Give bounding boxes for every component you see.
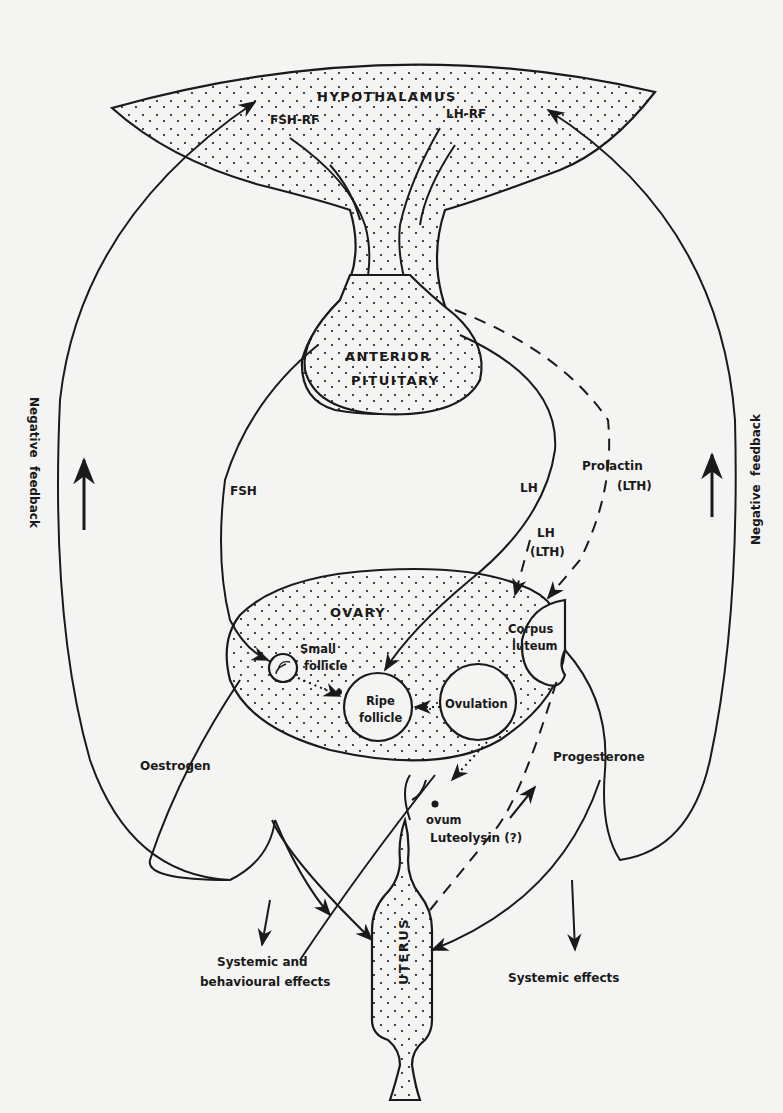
ovum-dot <box>432 801 439 808</box>
endocrine-cycle-diagram: HYPOTHALAMUS FSH-RF LH-RF ANTERIOR PITUI… <box>0 0 783 1113</box>
systemic-behavioural-label-1: Systemic and <box>217 955 308 969</box>
corpus-luteum-label-1: Corpus <box>508 622 553 636</box>
prolactin-label-2: (LTH) <box>617 479 652 493</box>
ovulation-label: Ovulation <box>445 697 508 711</box>
lh-label: LH <box>520 481 538 495</box>
systemic-behavioural-label-2: behavioural effects <box>200 975 330 989</box>
small-follicle-label-2: follicle <box>304 659 347 673</box>
fsh-label: FSH <box>230 484 257 498</box>
anterior-pituitary-label-2: PITUITARY <box>351 373 440 388</box>
lh-lth-label-2: (LTH) <box>530 545 565 559</box>
hypothalamus-label: HYPOTHALAMUS <box>317 89 457 104</box>
fsh-rf-label: FSH-RF <box>270 113 319 127</box>
anterior-pituitary-label-1: ANTERIOR <box>345 349 432 364</box>
ovum-label: ovum <box>426 813 462 827</box>
lh-rf-label: LH-RF <box>446 107 486 121</box>
corpus-luteum-label-2: luteum <box>512 639 558 653</box>
oviduct <box>405 775 426 820</box>
ripe-follicle-label-1: Ripe <box>366 694 395 708</box>
small-follicle-label-1: Small <box>300 642 336 656</box>
prolactin-label-1: Prolactin <box>582 459 643 473</box>
lh-lth-label-1: LH <box>537 526 555 540</box>
ripe-follicle-label-2: follicle <box>359 711 402 725</box>
left-feedback-label: Negative feedback <box>27 397 41 529</box>
small-follicle-shape <box>269 654 297 682</box>
ovary-label: OVARY <box>330 605 386 620</box>
luteolysin-label: Luteolysin (?) <box>430 831 522 845</box>
uterus-label: UTERUS <box>396 918 411 985</box>
progesterone-label: Progesterone <box>553 750 645 764</box>
right-feedback-label: Negative feedback <box>749 413 763 545</box>
oestrogen-label: Oestrogen <box>140 759 211 773</box>
anterior-pituitary <box>304 275 481 414</box>
systemic-effects-label: Systemic effects <box>508 971 619 985</box>
